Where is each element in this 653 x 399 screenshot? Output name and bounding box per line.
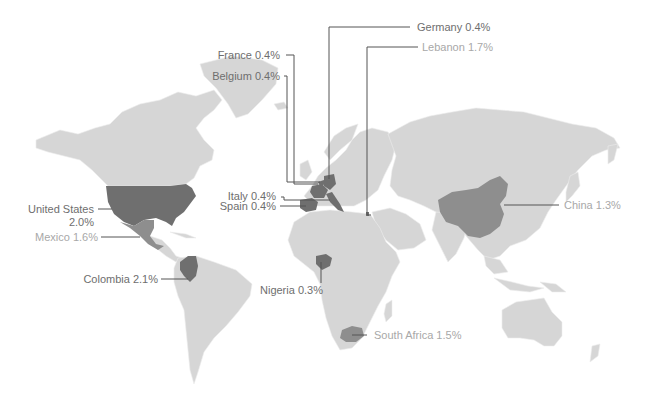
land-new-guinea — [540, 282, 566, 292]
land-kamchatka — [608, 144, 618, 164]
land-madagascar — [384, 300, 392, 322]
country-united-states — [106, 184, 196, 226]
label-colombia: Colombia 2.1% — [70, 273, 158, 286]
land-caribbean — [170, 232, 196, 238]
land-new-zealand — [590, 344, 600, 362]
label-mexico: Mexico 1.6% — [10, 231, 98, 244]
label-united-states-value: 2.0% — [10, 216, 94, 229]
label-spain: Spain 0.4% — [196, 200, 276, 213]
label-south-africa: South Africa 1.5% — [374, 329, 461, 342]
country-mexico — [120, 220, 164, 250]
label-lebanon: Lebanon 1.7% — [422, 41, 493, 54]
land-north-america — [36, 90, 222, 186]
world-map: Germany 0.4% Lebanon 1.7% France 0.4% Be… — [0, 0, 653, 399]
label-china: China 1.3% — [564, 199, 621, 212]
land-central-america — [150, 236, 182, 262]
label-france: France 0.4% — [200, 49, 280, 62]
world-map-svg — [0, 0, 653, 399]
land-uk — [300, 160, 312, 180]
label-nigeria: Nigeria 0.3% — [260, 284, 323, 297]
land-australia — [502, 298, 562, 346]
land-iceland — [274, 102, 288, 110]
label-united-states: United States — [10, 203, 94, 216]
land-indonesia — [494, 278, 544, 292]
land-se-asia — [484, 256, 508, 274]
label-germany: Germany 0.4% — [417, 21, 490, 34]
label-belgium: Belgium 0.4% — [196, 70, 280, 83]
